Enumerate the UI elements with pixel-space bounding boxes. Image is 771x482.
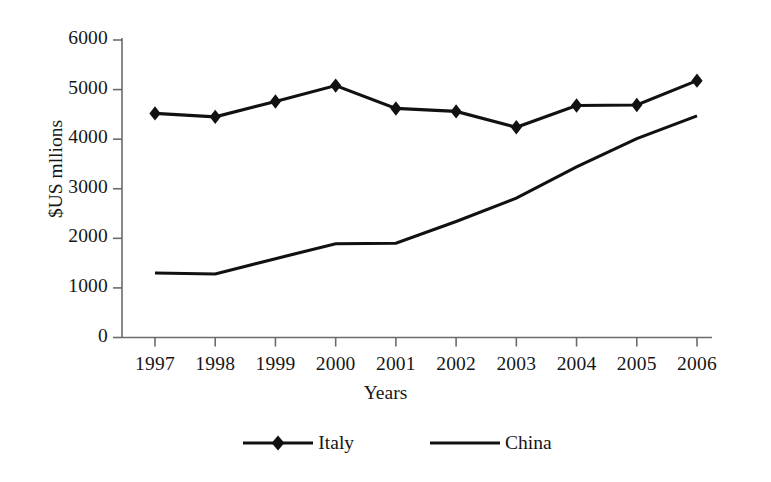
data-point-marker xyxy=(451,104,462,118)
line-chart: 0100020003000400050006000 19971998199920… xyxy=(0,0,771,482)
data-point-marker xyxy=(571,98,582,112)
data-point-marker xyxy=(511,120,522,134)
legend-marker-italy-icon xyxy=(241,432,315,454)
legend-marker-china-icon xyxy=(428,432,502,454)
data-point-marker xyxy=(270,94,281,108)
legend-item-italy: Italy xyxy=(241,432,354,454)
chart-plot-area xyxy=(0,0,771,482)
y-tick-label: 5000 xyxy=(68,77,108,99)
x-axis-title: Years xyxy=(0,382,771,404)
legend-item-china: China xyxy=(428,432,552,454)
y-tick-label: 4000 xyxy=(68,126,108,148)
legend-label-italy: Italy xyxy=(318,432,354,454)
y-tick-label: 1000 xyxy=(68,275,108,297)
data-point-marker xyxy=(631,98,642,112)
y-tick-label: 0 xyxy=(98,325,108,347)
series-line-italy xyxy=(155,81,697,128)
data-point-marker xyxy=(149,106,160,120)
y-tick-label: 2000 xyxy=(68,225,108,247)
data-point-marker xyxy=(390,101,401,115)
data-point-marker xyxy=(210,110,221,124)
chart-legend: Italy China xyxy=(0,432,771,454)
y-axis-ticks xyxy=(113,40,122,338)
y-tick-label: 3000 xyxy=(68,176,108,198)
x-axis-ticks xyxy=(155,338,697,347)
data-point-marker xyxy=(691,73,702,87)
series-line-china xyxy=(155,116,697,274)
data-point-marker xyxy=(330,78,341,92)
x-tick-label: 2006 xyxy=(657,353,737,375)
y-axis-title: $US mllions xyxy=(45,69,67,269)
legend-label-china: China xyxy=(505,432,552,454)
y-tick-label: 6000 xyxy=(68,27,108,49)
